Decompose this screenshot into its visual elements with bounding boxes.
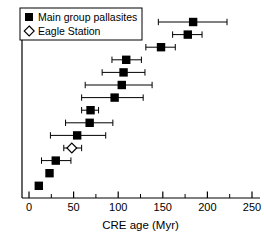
legend-entry: Main group pallasites — [25, 11, 137, 23]
chart-legend: Main group pallasitesEagle Station — [20, 8, 142, 40]
marker-filled-square — [35, 182, 43, 190]
x-axis-tick-label: 0 — [26, 201, 32, 213]
x-axis-tick-label: 200 — [198, 201, 216, 213]
marker-filled-square — [86, 106, 94, 114]
x-axis-title: CRE age (Myr) — [102, 219, 179, 231]
x-axis-tick-label: 250 — [243, 201, 261, 213]
marker-filled-square — [73, 131, 81, 139]
marker-filled-square — [45, 169, 53, 177]
marker-filled-square — [110, 93, 118, 101]
legend-label: Main group pallasites — [38, 11, 137, 23]
marker-filled-square — [122, 56, 130, 64]
pallasite-datapoint — [45, 169, 53, 177]
x-axis-tick-label: 50 — [67, 201, 79, 213]
pallasite-datapoint — [35, 182, 43, 190]
marker-filled-square — [85, 119, 93, 127]
marker-filled-square — [157, 43, 165, 51]
marker-filled-square — [184, 30, 192, 38]
marker-filled-square — [52, 156, 60, 164]
x-axis-tick-label: 100 — [109, 201, 127, 213]
marker-filled-square — [119, 68, 127, 76]
legend-label: Eagle Station — [38, 25, 101, 37]
legend-filled-square-icon — [25, 13, 33, 21]
x-axis-tick-label: 150 — [154, 201, 172, 213]
cre-age-scatter-chart: 050100150200250CRE age (Myr) Main group … — [0, 0, 264, 244]
marker-filled-square — [118, 81, 126, 89]
marker-filled-square — [189, 18, 197, 26]
